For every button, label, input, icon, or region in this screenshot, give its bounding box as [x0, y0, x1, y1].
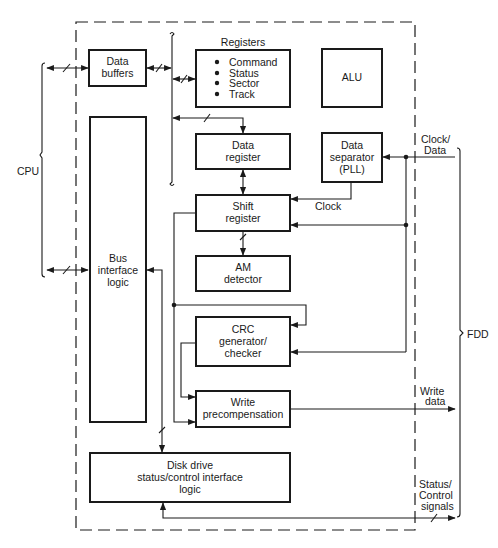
svg-text:status/control interface: status/control interface — [137, 471, 243, 483]
svg-text:buffers: buffers — [102, 67, 134, 79]
disk-drive-block: Disk drive status/control interface logi… — [90, 453, 290, 502]
cpu-bracket: CPU — [17, 63, 45, 277]
svg-text:Data: Data — [232, 139, 254, 151]
fdd-label: FDD — [467, 328, 489, 340]
svg-text:Registers: Registers — [221, 36, 265, 48]
shift-register-block: Shift register — [196, 195, 290, 231]
svg-text:Bus: Bus — [109, 252, 127, 264]
sr-to-precomp — [174, 213, 196, 422]
svg-text:interface: interface — [98, 264, 138, 276]
bus-interface-block: Bus interface logic — [90, 117, 146, 422]
crc-to-precomp — [181, 343, 196, 397]
svg-text:Track: Track — [229, 88, 256, 100]
write-precomp-block: Write precompensation — [196, 391, 290, 427]
data-buffers-block: Data buffers — [89, 50, 146, 86]
fdc-block-diagram: CPU FDD Data buffers Registers Command S… — [0, 0, 498, 548]
data-register-block: Data register — [196, 134, 290, 169]
fdd-bracket: FDD — [457, 148, 489, 517]
svg-text:Disk drive: Disk drive — [167, 459, 213, 471]
svg-text:CRC: CRC — [232, 323, 255, 335]
svg-text:Data: Data — [106, 55, 128, 67]
clock-label: Clock — [315, 200, 342, 212]
registers-block: Registers Command Status Sector Track — [196, 36, 290, 107]
bus-to-disk-drive — [147, 270, 162, 452]
internal-bus — [170, 33, 174, 186]
svg-text:checker: checker — [225, 347, 262, 359]
svg-text:generator/: generator/ — [219, 335, 267, 347]
svg-text:register: register — [225, 151, 261, 163]
svg-text:Shift: Shift — [232, 200, 253, 212]
crc-block: CRC generator/ checker — [196, 317, 290, 366]
svg-text:detector: detector — [224, 273, 262, 285]
clock-link — [291, 182, 351, 199]
svg-text:logic: logic — [179, 483, 201, 495]
svg-text:Write: Write — [231, 396, 255, 408]
svg-text:(PLL): (PLL) — [339, 163, 365, 175]
svg-text:Data: Data — [424, 144, 446, 156]
data-separator-block: Data separator (PLL) — [322, 133, 382, 182]
cpu-label: CPU — [17, 165, 39, 177]
svg-text:Data: Data — [341, 139, 363, 151]
am-detector-block: AM detector — [196, 256, 290, 291]
bus-data-register-link — [173, 118, 243, 133]
svg-text:AM: AM — [235, 261, 251, 273]
svg-text:separator: separator — [330, 151, 375, 163]
status-control-link — [163, 503, 455, 518]
svg-text:signals: signals — [421, 500, 454, 512]
alu-block: ALU — [322, 49, 382, 107]
svg-text:register: register — [225, 212, 261, 224]
svg-text:data: data — [425, 395, 446, 407]
svg-text:logic: logic — [107, 276, 129, 288]
svg-text:ALU: ALU — [342, 71, 362, 83]
svg-text:precompensation: precompensation — [203, 408, 284, 420]
